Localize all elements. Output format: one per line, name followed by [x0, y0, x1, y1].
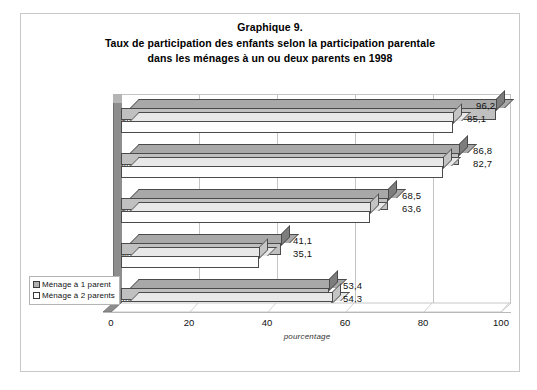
- bar-top-face: [130, 189, 406, 198]
- chart-card: Graphique 9. Taux de participation des e…: [20, 13, 520, 372]
- bar-top-face: [130, 202, 388, 211]
- chart-title-line-2: Taux de participation des enfants selon …: [21, 36, 519, 52]
- x-tick-label: 80: [418, 317, 429, 328]
- bar-top-face: [130, 292, 350, 301]
- bar-top-face: [130, 157, 461, 166]
- x-tick-label: 100: [493, 317, 509, 328]
- x-tick-label: 20: [184, 317, 195, 328]
- x-tick-label: 60: [340, 317, 351, 328]
- value-label-series-a: 53,4: [343, 280, 362, 291]
- x-tick-label: 40: [262, 317, 273, 328]
- bar-top-face: [130, 247, 277, 256]
- bar-front-face: [121, 256, 259, 268]
- x-axis-line: [103, 312, 511, 313]
- legend-label: Ménage à 1 parent: [42, 280, 111, 289]
- bar-front-face: [121, 211, 370, 223]
- bar-series-b[interactable]: [121, 121, 462, 133]
- chart-title-line-1: Graphique 9.: [21, 20, 519, 36]
- bar-top-face: [130, 234, 299, 243]
- chart-legend: Ménage à 1 parent Ménage à 2 parents: [29, 276, 120, 305]
- bar-front-face: [121, 121, 453, 133]
- legend-item-series-b[interactable]: Ménage à 2 parents: [33, 290, 115, 301]
- plot-area: Sport et admin. 96,2 85,1 Admin. seuleme…: [103, 94, 511, 321]
- bar-series-b[interactable]: [121, 211, 379, 223]
- chart-title-line-3: dans les ménages à un ou deux parents en…: [21, 51, 519, 67]
- legend-item-series-a[interactable]: Ménage à 1 parent: [33, 279, 115, 290]
- bar-top-face: [130, 112, 471, 121]
- value-label-series-a: 68,5: [402, 190, 421, 201]
- chart-title: Graphique 9. Taux de participation des e…: [21, 20, 519, 67]
- value-label-series-a: 96,2: [476, 100, 495, 111]
- bar-series-b[interactable]: [121, 166, 452, 178]
- legend-swatch-icon: [33, 281, 40, 288]
- bar-front-face: [121, 166, 443, 178]
- value-label-series-b: 82,7: [473, 158, 492, 169]
- legend-swatch-icon: [33, 292, 40, 299]
- value-label-series-a: 86,8: [473, 145, 492, 156]
- value-label-series-a: 41,1: [293, 235, 312, 246]
- value-label-series-b: 54,3: [343, 293, 362, 304]
- value-label-series-b: 63,6: [402, 203, 421, 214]
- value-label-series-b: 35,1: [293, 248, 312, 259]
- x-axis-title: pourcentage: [103, 332, 511, 341]
- gridline-100: [510, 95, 511, 303]
- bar-series-b[interactable]: [121, 256, 268, 268]
- x-tick-label: 0: [108, 317, 113, 328]
- bar-top-face: [130, 144, 477, 153]
- value-label-series-b: 85,1: [467, 113, 486, 124]
- bar-top-face: [130, 279, 347, 288]
- legend-label: Ménage à 2 parents: [42, 291, 115, 300]
